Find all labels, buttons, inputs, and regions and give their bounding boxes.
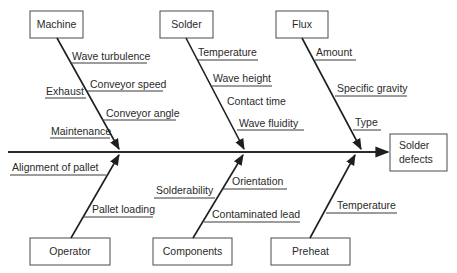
category-label-operator: Operator — [49, 245, 91, 257]
category-machine: Machine Wave turbulence Conveyor speed E… — [30, 11, 180, 149]
category-operator: Operator Alignment of pallet Pallet load… — [10, 155, 155, 265]
effect-label-line2: defects — [399, 153, 433, 165]
bone-components — [193, 155, 243, 238]
effect-box: Solder defects — [390, 134, 447, 171]
cause-solder-wave-height: Wave height — [213, 72, 271, 84]
cause-machine-conveyor-speed: Conveyor speed — [90, 78, 167, 90]
cause-components-solderability: Solderability — [156, 184, 214, 196]
cause-flux-specific-gravity: Specific gravity — [337, 82, 408, 94]
cause-machine-conveyor-angle: Conveyor angle — [106, 107, 180, 119]
cause-components-orientation: Orientation — [232, 175, 284, 187]
cause-flux-amount: Amount — [316, 46, 352, 58]
fishbone-diagram: Solder defects Machine Wave turbulence C… — [0, 0, 457, 273]
cause-flux-type: Type — [355, 116, 378, 128]
cause-preheat-temperature: Temperature — [337, 199, 396, 211]
category-label-preheat: Preheat — [292, 245, 329, 257]
cause-operator-pallet-loading: Pallet loading — [92, 203, 155, 215]
cause-solder-wave-fluidity: Wave fluidity — [239, 117, 299, 129]
cause-operator-alignment-of-pallet: Alignment of pallet — [12, 161, 98, 173]
category-label-flux: Flux — [292, 18, 313, 30]
cause-machine-maintenance: Maintenance — [51, 125, 111, 137]
cause-machine-wave-turbulence: Wave turbulence — [72, 50, 151, 62]
cause-solder-temperature: Temperature — [198, 46, 257, 58]
category-label-machine: Machine — [37, 18, 77, 30]
cause-solder-contact-time: Contact time — [227, 95, 286, 107]
cause-components-contaminated-lead: Contaminated lead — [212, 208, 300, 220]
cause-machine-exhaust: Exhaust — [46, 85, 84, 97]
category-label-solder: Solder — [171, 18, 202, 30]
bone-preheat — [310, 155, 355, 238]
effect-label-line1: Solder — [399, 139, 430, 151]
category-label-components: Components — [163, 245, 223, 257]
